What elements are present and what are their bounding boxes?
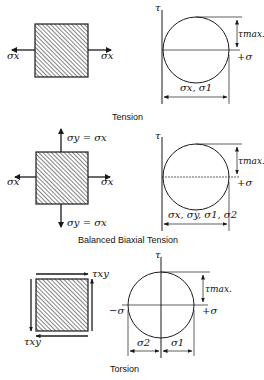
- stress-element-torsion: τxy τxy: [24, 268, 109, 347]
- label-sigma-x-right: σx: [101, 50, 114, 61]
- label-sigma-x-left: σx: [7, 176, 20, 187]
- hatched-element-square: [35, 24, 88, 77]
- label-tau-max: τmax.: [238, 29, 264, 39]
- label-sigma-x-left: σx: [7, 50, 20, 61]
- caption-torsion: Torsion: [110, 364, 139, 374]
- label-tau-xy-bottom-left: τxy: [24, 336, 41, 347]
- label-minus-sigma: −σ: [109, 305, 125, 316]
- panel-torsion: τxy τxy τ τmax. +σ −σ σ2 σ1 Torsion: [24, 249, 232, 374]
- label-tau-xy-top-right: τxy: [92, 268, 109, 279]
- label-sigma-y-bottom: σy = σx: [67, 217, 107, 228]
- mohr-circle-diagram: σx σx τ τmax. +σ σx, σ1 Tension σx σx: [0, 0, 264, 380]
- label-tau: τ: [155, 249, 161, 260]
- mohr-circle-tension: τ τmax. +σ σx, σ1: [155, 2, 264, 104]
- label-sigma-x-right: σx: [101, 176, 114, 187]
- panel-balanced-biaxial-tension: σx σx σy = σx σy = σx τ τmax. +σ σx, σy,…: [7, 129, 264, 245]
- hatched-element-square: [36, 279, 88, 331]
- panel-tension: σx σx τ τmax. +σ σx, σ1 Tension: [7, 2, 264, 122]
- stress-element-biaxial: σx σx σy = σx σy = σx: [7, 129, 114, 228]
- label-sigma-y-top: σy = σx: [67, 132, 107, 143]
- label-plus-sigma: +σ: [237, 177, 253, 188]
- caption-tension: Tension: [112, 112, 143, 122]
- label-sigma-combined: σx, σy, σ1, σ2: [168, 209, 237, 220]
- label-tau-max: τmax.: [238, 156, 264, 166]
- label-sigma-x-sigma-1: σx, σ1: [180, 82, 212, 93]
- label-tau: τ: [155, 130, 161, 141]
- label-plus-sigma: +σ: [202, 305, 218, 316]
- hatched-element-square: [36, 152, 88, 204]
- mohr-circle-torsion: τ τmax. +σ −σ σ2 σ1: [109, 249, 232, 358]
- label-sigma-1: σ1: [171, 337, 184, 348]
- caption-balanced-biaxial-tension: Balanced Biaxial Tension: [78, 235, 178, 245]
- label-sigma-2: σ2: [137, 337, 150, 348]
- label-plus-sigma: +σ: [237, 51, 253, 62]
- stress-element-tension: σx σx: [7, 24, 114, 77]
- label-tau-max: τmax.: [205, 284, 232, 294]
- mohr-circle-biaxial: τ τmax. +σ σx, σy, σ1, σ2: [155, 130, 264, 231]
- label-tau: τ: [155, 2, 161, 13]
